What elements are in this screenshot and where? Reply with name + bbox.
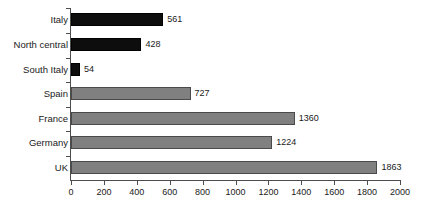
x-axis-tick [301,181,302,185]
value-label-italy: 561 [167,14,182,25]
category-label-north-central: North central [14,39,68,50]
bar-chart: Italy North central South Italy Spain Fr… [0,0,425,208]
category-label-italy: Italy [51,14,68,25]
category-label-uk: UK [55,162,68,173]
x-axis-tick [170,181,171,185]
x-axis-tick-label: 2000 [380,187,420,197]
x-axis-tick [268,181,269,185]
y-axis-tick [66,82,70,83]
y-axis-tick [66,58,70,59]
value-label-spain: 727 [195,88,210,99]
y-axis-tick [66,33,70,34]
bar-north-central [71,38,141,51]
value-label-france: 1360 [299,113,319,124]
y-axis-tick [66,8,70,9]
category-label-spain: Spain [44,88,68,99]
y-axis-tick [66,156,70,157]
x-axis-tick [236,181,237,185]
y-axis-tick [66,131,70,132]
category-label-france: France [38,113,68,124]
y-axis-tick [66,107,70,108]
x-axis-tick [400,181,401,185]
x-axis-tick [71,181,72,185]
category-label-south-italy: South Italy [23,64,68,75]
x-axis-tick [104,181,105,185]
category-label-germany: Germany [29,137,68,148]
value-label-germany: 1224 [276,137,296,148]
bar-uk [71,161,377,174]
bar-spain [71,87,191,100]
value-label-south-italy: 54 [84,64,94,75]
bar-south-italy [71,63,80,76]
x-axis-tick [367,181,368,185]
value-label-north-central: 428 [145,39,160,50]
bar-germany [71,136,272,149]
x-axis-tick [334,181,335,185]
bar-france [71,112,295,125]
x-axis-tick [137,181,138,185]
x-axis-tick [203,181,204,185]
bar-italy [71,13,163,26]
value-label-uk: 1863 [381,162,401,173]
